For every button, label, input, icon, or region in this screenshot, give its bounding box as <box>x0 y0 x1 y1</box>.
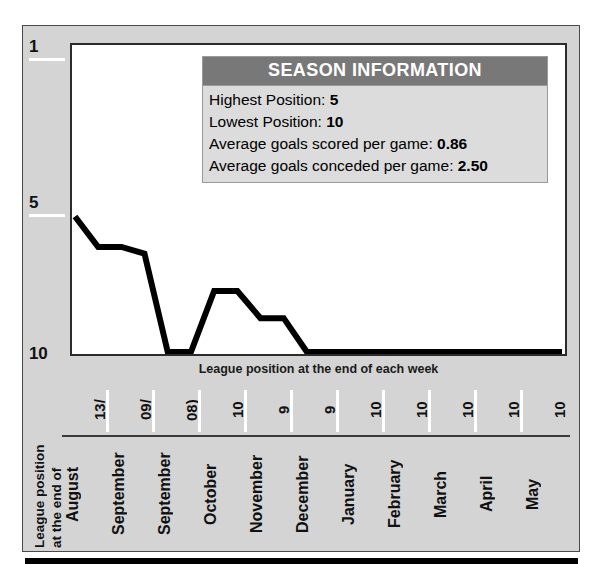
x-axis-week-number: 10 <box>202 388 246 432</box>
y-axis-tick-1-rule <box>29 58 65 61</box>
x-axis-column: 10March <box>432 386 476 550</box>
x-axis-week-number: 10 <box>386 388 430 432</box>
x-axis-separator <box>290 390 293 432</box>
avg-goals-conceded-value: 2.50 <box>458 157 488 174</box>
x-axis-column: 10April <box>478 386 522 550</box>
y-axis-tick-10: 10 <box>29 344 47 364</box>
y-axis-tick-5-rule <box>29 214 65 217</box>
lowest-position-value: 10 <box>326 113 343 130</box>
x-axis-week-number: 08) <box>156 388 200 432</box>
avg-goals-scored-label: Average goals scored per game: <box>209 135 433 152</box>
x-axis-week-number: 10 <box>432 388 476 432</box>
x-axis-column: 10May <box>524 386 568 550</box>
season-info-row: Average goals conceded per game: 2.50 <box>209 155 541 177</box>
x-axis-column: 9November <box>248 386 292 550</box>
x-axis-separator <box>152 390 155 432</box>
x-axis-separator <box>428 390 431 432</box>
league-position-line <box>75 216 562 352</box>
x-axis-column: 08)September <box>156 386 200 550</box>
x-axis-separator <box>336 390 339 432</box>
x-axis-month-label: January <box>340 440 384 548</box>
y-axis-tick-5: 5 <box>29 193 65 217</box>
x-axis-separator <box>198 390 201 432</box>
x-axis-column: 10October <box>202 386 246 550</box>
x-axis-column: 10January <box>340 386 384 550</box>
x-axis-separator <box>106 390 109 432</box>
x-axis-week-number: 9 <box>294 388 338 432</box>
season-info-row: Highest Position: 5 <box>209 89 541 111</box>
x-axis-column: 9December <box>294 386 338 550</box>
x-axis-month-label: April <box>478 440 522 548</box>
season-info-row: Lowest Position: 10 <box>209 111 541 133</box>
x-axis-labels: League position at the end of 13/August0… <box>24 386 579 550</box>
x-axis-column: 10February <box>386 386 430 550</box>
x-axis-month-label: August <box>64 440 108 548</box>
x-axis-month-label: November <box>248 440 292 548</box>
bottom-black-bar <box>25 558 578 564</box>
y-axis-tick-1: 1 <box>29 37 65 61</box>
y-axis-tick-5-label: 5 <box>29 193 38 212</box>
season-information-box: SEASON INFORMATION Highest Position: 5 L… <box>202 56 548 183</box>
plot-caption: League position at the end of each week <box>70 362 567 376</box>
season-info-row: Average goals scored per game: 0.86 <box>209 133 541 155</box>
x-axis-month-label: May <box>524 440 568 548</box>
x-axis-week-number: 09/ <box>110 388 154 432</box>
x-axis-separator <box>382 390 385 432</box>
x-axis-month-label: March <box>432 440 476 548</box>
avg-goals-scored-value: 0.86 <box>437 135 467 152</box>
x-axis-separator <box>474 390 477 432</box>
avg-goals-conceded-label: Average goals conceded per game: <box>209 157 453 174</box>
y-axis-tick-10-label: 10 <box>29 344 47 363</box>
x-axis-title-line-1: League position <box>32 416 47 548</box>
x-axis-week-number: 9 <box>248 388 292 432</box>
x-axis-month-label: September <box>156 440 200 548</box>
x-axis-week-number: 10 <box>478 388 522 432</box>
figure-frame: 1 5 10 SEASON INFORMATION Highest Positi… <box>22 25 580 552</box>
highest-position-value: 5 <box>330 91 339 108</box>
lowest-position-label: Lowest Position: <box>209 113 322 130</box>
season-information-body: Highest Position: 5 Lowest Position: 10 … <box>203 85 547 182</box>
x-axis-separator <box>520 390 523 432</box>
x-axis-month-label: December <box>294 440 338 548</box>
x-axis-week-number: 13/ <box>64 388 108 432</box>
x-axis-column: 13/August <box>64 386 108 550</box>
x-axis-column: 09/September <box>110 386 154 550</box>
highest-position-label: Highest Position: <box>209 91 325 108</box>
x-axis-month-label: February <box>386 440 430 548</box>
x-axis-week-number: 10 <box>524 388 568 432</box>
x-axis-month-label: September <box>110 440 154 548</box>
x-axis-week-number: 10 <box>340 388 384 432</box>
x-axis-month-label: October <box>202 440 246 548</box>
season-information-header: SEASON INFORMATION <box>203 57 547 85</box>
x-axis-separator <box>244 390 247 432</box>
y-axis-tick-1-label: 1 <box>29 37 38 56</box>
